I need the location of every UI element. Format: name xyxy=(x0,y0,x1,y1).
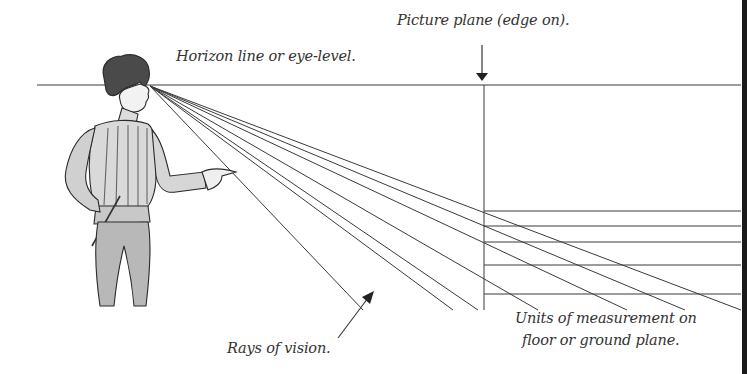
ray-line xyxy=(150,86,363,310)
figure-legs xyxy=(96,222,150,306)
figure-right-arm xyxy=(152,130,206,192)
rays-of-vision xyxy=(150,86,741,310)
figure-peplum xyxy=(94,206,150,224)
ray-line xyxy=(150,86,453,310)
figure-pointing-hand xyxy=(202,169,236,190)
renaissance-figure xyxy=(65,55,236,306)
units-label-line1: Units of measurement on xyxy=(515,310,697,326)
horizon-label: Horizon line or eye-level. xyxy=(176,48,356,64)
ray-line xyxy=(150,86,538,310)
ray-line xyxy=(150,86,627,310)
picture-plane-arrow-icon xyxy=(476,45,488,81)
rays-of-vision-label: Rays of vision. xyxy=(227,340,330,356)
units-label-line2: floor or ground plane. xyxy=(522,332,679,348)
ray-line xyxy=(150,86,685,310)
ray-line xyxy=(150,86,478,310)
floor-measurement-lines xyxy=(484,211,741,294)
page-edge-border xyxy=(742,0,747,374)
rays-arrow-icon xyxy=(338,291,374,338)
picture-plane-label: Picture plane (edge on). xyxy=(397,12,569,28)
ray-line xyxy=(150,86,741,310)
